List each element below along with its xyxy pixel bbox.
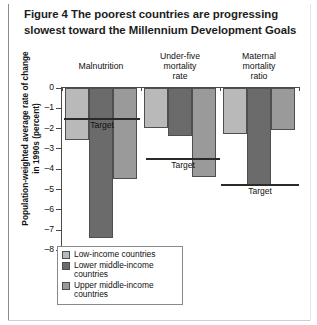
y-axis-tick: [56, 108, 61, 109]
y-axis-tick: [56, 148, 61, 149]
legend-label-low-income: Low-income countries: [74, 250, 155, 260]
legend-swatch-lower-middle-income: [62, 262, 70, 270]
y-axis-tick-label: –6: [28, 205, 54, 214]
y-axis-tick: [56, 189, 61, 190]
figure-container: Figure 4 The poorest countries are progr…: [0, 0, 317, 325]
bar: [89, 88, 113, 238]
x-axis-tick: [62, 87, 63, 91]
legend-swatch-low-income: [62, 251, 70, 259]
x-axis-tick: [220, 87, 221, 91]
bar: [223, 88, 247, 135]
legend-item: Low-income countries: [62, 250, 178, 260]
y-axis-tick-label: –3: [28, 144, 54, 153]
x-axis-group-label: Under-fivemortalityrate: [144, 51, 216, 82]
x-axis-tick: [141, 87, 142, 91]
x-axis-group-label: Maternalmortalityratio: [223, 51, 295, 82]
y-axis-tick-label: –7: [28, 225, 54, 234]
y-axis-tick: [56, 230, 61, 231]
target-label: Target: [64, 121, 140, 130]
y-axis-line: [61, 87, 62, 251]
y-axis-tick-label: 0: [28, 83, 54, 92]
x-axis-group-label: Malnutrition: [65, 61, 137, 71]
y-axis-tick: [56, 88, 61, 89]
target-label: Target: [146, 161, 220, 170]
y-axis-tick-label: –8: [28, 245, 54, 254]
bar: [144, 88, 168, 129]
legend-item: Upper middle-income countries: [62, 281, 178, 300]
y-axis-tick-label: –2: [28, 124, 54, 133]
y-axis-tick: [56, 128, 61, 129]
target-label: Target: [221, 187, 299, 196]
legend-item: Lower middle-income countries: [62, 261, 178, 280]
bar: [271, 88, 295, 131]
bar: [247, 88, 271, 185]
bar: [113, 88, 137, 179]
y-axis-title: Population-weighted average rate of chan…: [20, 49, 41, 229]
legend-label-lower-middle-income: Lower middle-income countries: [74, 261, 178, 280]
bar: [168, 88, 192, 137]
chart-legend: Low-income countries Lower middle-income…: [57, 246, 183, 305]
y-axis-tick-label: –5: [28, 185, 54, 194]
legend-swatch-upper-middle-income: [62, 282, 70, 290]
y-axis-tick: [56, 209, 61, 210]
legend-label-upper-middle-income: Upper middle-income countries: [74, 281, 178, 300]
y-axis-tick-label: –4: [28, 164, 54, 173]
y-axis-tick-label: –1: [28, 103, 54, 112]
y-axis-tick: [56, 169, 61, 170]
bar: [65, 88, 89, 141]
x-axis-tick: [299, 87, 300, 91]
